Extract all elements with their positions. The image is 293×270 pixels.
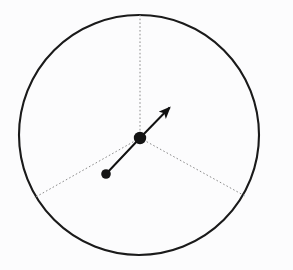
satellite-point-marker	[101, 169, 111, 179]
center-point-marker	[134, 132, 146, 144]
figure-root	[0, 0, 293, 270]
figure-background	[0, 0, 293, 270]
circle-vector-diagram	[0, 0, 293, 270]
